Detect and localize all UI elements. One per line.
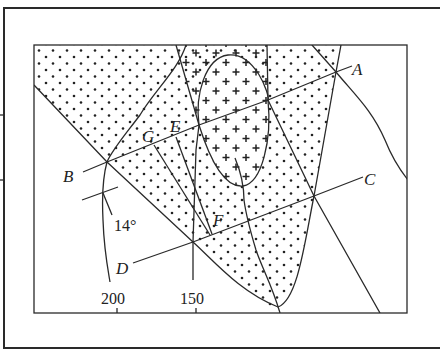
point-label-c: C (364, 170, 376, 189)
strike-dip-symbol (82, 187, 118, 215)
point-label-g: G (142, 127, 154, 146)
point-label-e: E (169, 117, 181, 136)
geological-map-figure: A B C D E F G 14° 200 150 (0, 0, 448, 355)
contour-label-200: 200 (101, 290, 125, 307)
contour-label-150: 150 (180, 290, 204, 307)
point-label-f: F (212, 211, 224, 230)
point-label-a: A (351, 60, 363, 79)
point-label-d: D (115, 259, 129, 278)
dip-angle-label: 14° (114, 217, 136, 234)
point-label-b: B (63, 167, 74, 186)
